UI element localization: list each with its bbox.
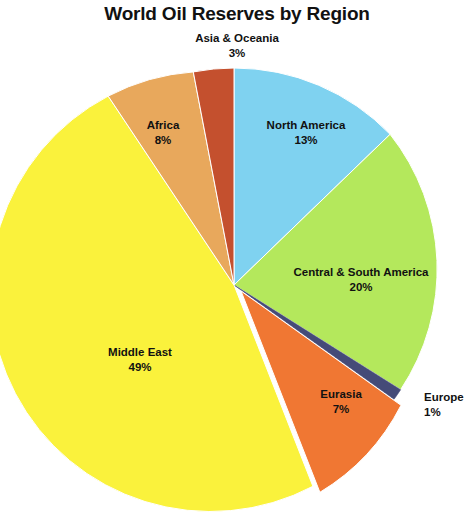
pie-graphic <box>0 0 474 514</box>
pie-chart-figure: World Oil Reserves by Region Asia & Ocea… <box>0 0 474 514</box>
